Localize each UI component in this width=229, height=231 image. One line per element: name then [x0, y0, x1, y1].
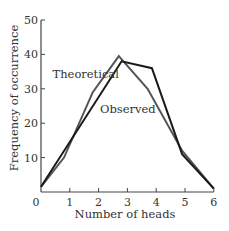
y-tick-label: 50	[24, 14, 38, 27]
label-observed: Observed	[100, 102, 156, 116]
x-axis-title: Number of heads	[75, 207, 176, 221]
x-tick-label: 1	[66, 196, 73, 209]
y-tick-label: 20	[24, 117, 38, 130]
y-tick-label: 30	[24, 83, 38, 96]
frequency-chart: 1020304050 0123456 TheoreticalObserved N…	[0, 0, 229, 231]
x-tick-label: 0	[33, 196, 40, 209]
label-theoretical: Theoretical	[53, 67, 120, 81]
series-labels: TheoreticalObserved	[53, 67, 157, 115]
y-tick-label: 40	[24, 48, 38, 61]
y-axis: 1020304050	[24, 14, 45, 192]
y-axis-title: Frequency of occurrence	[7, 25, 21, 172]
x-tick-label: 5	[182, 196, 189, 209]
x-tick-label: 6	[210, 196, 217, 209]
y-tick-label: 10	[24, 152, 38, 165]
x-axis: 0123456	[33, 188, 218, 209]
